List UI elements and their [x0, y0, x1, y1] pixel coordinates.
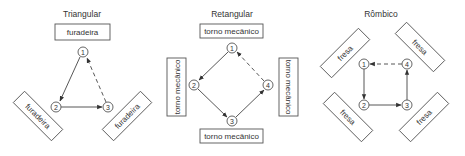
svg-text:1: 1 [362, 61, 366, 68]
edge-3-1 [87, 58, 106, 102]
machine-torno-top: torno mecânico [200, 24, 263, 38]
machine-furadeira-right: furadeira [102, 91, 151, 140]
machine-label: furadeira [67, 28, 99, 37]
machine-furadeira-top: furadeira [55, 24, 110, 40]
svg-text:4: 4 [405, 61, 409, 68]
rombico-title: Rômbico [364, 9, 398, 19]
retangular-layout: Retangular torno mecânico torno mecânico… [167, 9, 298, 143]
machine-fresa-bottom-left: fresa [323, 92, 372, 141]
node-2: 2 [189, 80, 199, 90]
node-1: 1 [359, 59, 369, 69]
machine-furadeira-left: furadeira [13, 91, 62, 140]
layout-diagrams: Triangular furadeira furadeira furadeira… [0, 0, 465, 156]
machine-torno-left: torno mecânico [167, 58, 186, 116]
machine-label: torno mecânico [204, 132, 259, 141]
edge-3-4 [236, 90, 264, 117]
machine-label: torno mecânico [173, 59, 182, 114]
machine-fresa-top-left: fresa [320, 28, 369, 77]
svg-text:1: 1 [81, 49, 85, 56]
node-2: 2 [51, 102, 61, 112]
node-3: 3 [402, 100, 412, 110]
node-3: 3 [227, 116, 237, 126]
svg-text:3: 3 [230, 118, 234, 125]
node-4: 4 [263, 80, 273, 90]
edge-1-2 [199, 52, 228, 80]
rombico-layout: Rômbico fresa fresa fresa fresa 1 2 [320, 9, 448, 142]
edge-2-3 [198, 89, 227, 117]
machine-label: torno mecânico [204, 27, 259, 36]
node-2: 2 [359, 100, 369, 110]
machine-label: torno mecânico [284, 60, 293, 115]
edge-1-2 [60, 57, 80, 101]
svg-text:4: 4 [266, 82, 270, 89]
node-3: 3 [103, 102, 113, 112]
triangular-layout: Triangular furadeira furadeira furadeira… [13, 9, 151, 141]
svg-text:1: 1 [230, 45, 234, 52]
node-4: 4 [402, 59, 412, 69]
node-1: 1 [227, 43, 237, 53]
machine-torno-bottom: torno mecânico [200, 129, 263, 143]
svg-text:2: 2 [362, 102, 366, 109]
svg-text:3: 3 [405, 102, 409, 109]
svg-text:2: 2 [192, 82, 196, 89]
edge-4-1 [237, 52, 264, 81]
node-1: 1 [78, 47, 88, 57]
triangular-title: Triangular [63, 9, 101, 19]
machine-torno-right: torno mecânico [279, 58, 298, 116]
svg-text:2: 2 [54, 104, 58, 111]
retangular-title: Retangular [211, 9, 253, 19]
svg-text:3: 3 [106, 104, 110, 111]
